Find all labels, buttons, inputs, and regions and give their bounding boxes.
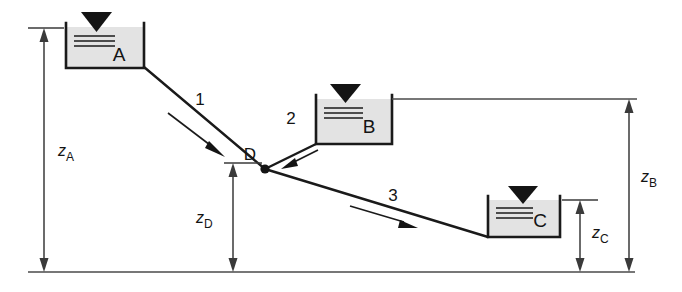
- dim-za-arrow-top: [40, 28, 49, 42]
- pipe-3-label: 3: [388, 186, 397, 205]
- schematic-canvas: A B C: [0, 0, 682, 292]
- dim-zc: zC: [562, 200, 609, 272]
- dim-za-arrow-bottom: [40, 258, 49, 272]
- dim-zb-label: zB: [640, 168, 657, 190]
- dim-zd-label: zD: [195, 209, 213, 231]
- dim-zd-arrow-top: [229, 163, 238, 177]
- tank-c-label: C: [533, 210, 547, 231]
- tank-b-label: B: [363, 116, 376, 137]
- pipe-2-label: 2: [286, 109, 295, 128]
- pipe-3: 3: [265, 169, 488, 237]
- tank-a: A: [66, 12, 144, 68]
- tank-b-body: [316, 99, 392, 144]
- dim-zc-arrow-bottom: [576, 258, 585, 272]
- dim-za-label: zA: [57, 142, 74, 164]
- three-reservoir-diagram: A B C: [0, 0, 682, 292]
- junction-d-dot: [260, 164, 269, 173]
- pipe-1-flow-arrow: [168, 113, 225, 157]
- dim-zb: zB: [392, 99, 657, 272]
- tank-a-body: [66, 27, 144, 68]
- tank-b: B: [316, 84, 392, 144]
- dim-zc-label: zC: [591, 224, 609, 246]
- pipe-3-line: [265, 169, 488, 237]
- dim-zb-arrow-top: [625, 99, 634, 113]
- tank-a-label: A: [113, 44, 126, 65]
- pipe-3-flow-arrow: [350, 206, 418, 228]
- dim-zc-arrow-top: [576, 200, 585, 214]
- dim-zb-arrow-bottom: [625, 258, 634, 272]
- junction-d-label: D: [244, 145, 256, 164]
- junction-d: D: [244, 145, 270, 174]
- pipe-2: 2: [265, 109, 318, 169]
- tank-c: C: [488, 186, 560, 237]
- dim-zd: zD: [195, 163, 262, 272]
- dim-zd-arrow-bottom: [229, 258, 238, 272]
- pipe-1-label: 1: [195, 90, 204, 109]
